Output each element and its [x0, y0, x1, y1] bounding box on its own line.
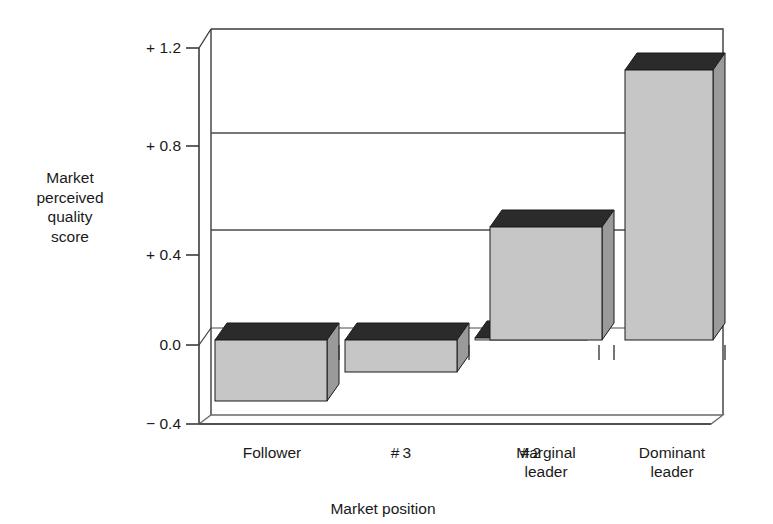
chart-figure: Market perceived quality score + 1.2 + 0…	[0, 0, 773, 524]
x-tick-label-marginal-leader-line-2: leader	[486, 462, 606, 481]
bar-dominant-leader	[625, 53, 725, 340]
x-tick-label-number-3: # 3	[341, 443, 461, 462]
x-tick-label-follower-line-1: Follower	[212, 443, 332, 462]
x-tick-label-dominant-leader: Dominant leader	[612, 443, 732, 481]
bar-number-3	[345, 323, 469, 372]
x-tick-label-number-3-line-1: # 3	[341, 443, 461, 462]
bar-follower	[215, 323, 339, 401]
x-tick-label-marginal-leader: Marginal leader	[486, 443, 606, 481]
x-axis-title: Market position	[273, 500, 493, 518]
x-tick-label-follower: Follower	[212, 443, 332, 462]
x-tick-label-dominant-leader-line-1: Dominant	[612, 443, 732, 462]
bar-marginal-leader	[490, 210, 614, 340]
x-tick-label-marginal-leader-line-1: Marginal	[486, 443, 606, 462]
plot-floor	[199, 415, 723, 424]
x-tick-label-dominant-leader-line-2: leader	[612, 462, 732, 481]
y-axis-ticks	[186, 48, 199, 424]
y-axis-line	[199, 29, 211, 424]
